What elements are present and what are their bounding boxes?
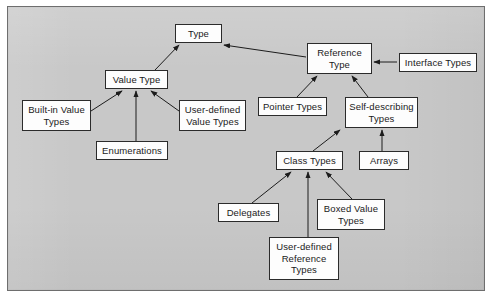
node-self_describing: Self-describing Types xyxy=(345,97,418,128)
node-reference_type: Reference Type xyxy=(307,43,372,74)
node-delegates: Delegates xyxy=(218,203,279,222)
node-interface_types: Interface Types xyxy=(399,53,477,72)
node-type: Type xyxy=(175,24,222,43)
node-builtin_value: Built-in Value Types xyxy=(22,100,91,131)
edge-builtin_value-to-value_type xyxy=(91,91,122,111)
node-userdef_ref: User-defined Reference Types xyxy=(269,237,339,280)
node-class_types: Class Types xyxy=(276,151,343,170)
edge-userdef_value-to-value_type xyxy=(151,91,179,111)
edge-delegates-to-class_types xyxy=(252,172,291,203)
edge-layer xyxy=(0,0,496,305)
node-boxed_value: Boxed Value Types xyxy=(317,199,385,230)
node-arrays: Arrays xyxy=(359,151,409,170)
diagram-root: TypeValue TypeReference TypeInterface Ty… xyxy=(0,0,496,305)
edge-pointer_types-to-reference xyxy=(297,76,317,97)
edge-value_type-to-type xyxy=(155,45,179,70)
edge-selfdesc-to-reference xyxy=(352,76,368,97)
node-enumerations: Enumerations xyxy=(96,141,168,160)
edge-class_types-to-selfdesc xyxy=(313,130,340,151)
edge-reference_type-to-type xyxy=(224,45,306,57)
edge-boxed_value-to-class_types xyxy=(326,172,352,199)
node-userdef_value: User-defined Value Types xyxy=(179,100,246,131)
node-value_type: Value Type xyxy=(105,70,168,89)
node-pointer_types: Pointer Types xyxy=(258,97,327,116)
